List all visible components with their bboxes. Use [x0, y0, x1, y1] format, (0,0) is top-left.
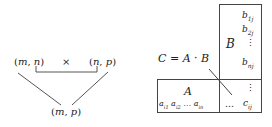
matrix-b-vdots: ⋮: [246, 39, 255, 48]
matrix-a-label: A: [184, 86, 192, 97]
matrix-b-entry: b2j: [242, 25, 253, 36]
times-operator: ×: [62, 57, 70, 67]
matrix-c-entry: cij: [243, 99, 252, 110]
result-dimension: (m, p): [51, 107, 81, 117]
matrix-b-entry: bnj: [242, 58, 254, 69]
matrix-a-row: ai1 ai2 … ain: [159, 100, 203, 110]
equation-label: C = A · B: [158, 53, 209, 64]
matrix-c-vdots: ⋮: [246, 84, 255, 93]
matrix-b-label: B: [226, 38, 235, 50]
matrix-b-entry: b1j: [242, 11, 253, 22]
right-dimension: (n, p): [89, 57, 116, 67]
left-dimension: (m, n): [14, 57, 44, 67]
matrix-c-hdots: …: [225, 100, 234, 109]
